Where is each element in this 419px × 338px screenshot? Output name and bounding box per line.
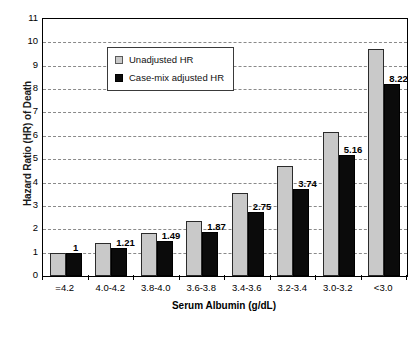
legend-item-adjusted: Case-mix adjusted HR xyxy=(115,71,224,85)
y-axis-tick-labels: 01234567891011 xyxy=(18,18,38,275)
x-axis-tick xyxy=(361,275,362,280)
x-axis-tick-label: 4.0-4.2 xyxy=(88,282,134,293)
legend-swatch-unadjusted-icon xyxy=(115,56,123,64)
bar-unadjusted xyxy=(323,132,339,276)
x-axis-tick-labels: =4.24.0-4.23.8-4.03.6-3.83.4-3.63.2-3.43… xyxy=(42,282,406,293)
y-axis-tick-label: 0 xyxy=(18,270,38,280)
bar-group: 1 xyxy=(43,19,89,276)
bar-unadjusted xyxy=(141,233,157,276)
x-axis-tick xyxy=(224,275,225,280)
x-axis-tick-label: =4.2 xyxy=(42,282,88,293)
chart-legend: Unadjusted HR Case-mix adjusted HR xyxy=(107,47,234,91)
y-axis-tick-label: 5 xyxy=(18,153,38,163)
bar-value-label: 3.74 xyxy=(298,179,317,189)
figure: Hazard Ratio (HR) of Death 0123456789101… xyxy=(0,0,419,338)
x-axis-tick-label: 3.4-3.6 xyxy=(224,282,270,293)
bar-adjusted: 1.21 xyxy=(111,248,127,276)
bar-adjusted: 3.74 xyxy=(293,189,309,276)
bar-adjusted: 1.49 xyxy=(157,241,173,276)
bar-unadjusted xyxy=(368,49,384,276)
bar-unadjusted xyxy=(232,193,248,276)
x-axis-tick xyxy=(179,275,180,280)
legend-item-unadjusted: Unadjusted HR xyxy=(115,53,224,67)
x-axis-tick xyxy=(88,275,89,280)
y-axis-tick-label: 7 xyxy=(18,107,38,117)
bar-group: 8.22 xyxy=(362,19,408,276)
x-axis-tick xyxy=(270,275,271,280)
cut-caption-strip xyxy=(0,332,419,338)
bar-value-label: 2.75 xyxy=(253,202,272,212)
y-axis-tick-label: 8 xyxy=(18,83,38,93)
bar-adjusted: 5.16 xyxy=(339,155,355,276)
bar-value-label: 1.21 xyxy=(116,238,135,248)
x-axis-tick xyxy=(42,275,43,280)
y-axis-tick-label: 1 xyxy=(18,247,38,257)
y-axis-tick-label: 4 xyxy=(18,177,38,187)
bar-group: 5.16 xyxy=(316,19,362,276)
y-axis-tick-label: 3 xyxy=(18,200,38,210)
bar-adjusted: 2.75 xyxy=(248,212,264,276)
bar-adjusted: 1.87 xyxy=(202,232,218,276)
legend-label-adjusted: Case-mix adjusted HR xyxy=(129,73,224,83)
y-axis-tick-label: 6 xyxy=(18,130,38,140)
x-axis-tick-label: 3.6-3.8 xyxy=(179,282,225,293)
x-axis-tick xyxy=(315,275,316,280)
x-axis-tick-label: 3.2-3.4 xyxy=(270,282,316,293)
x-axis-tick-label: <3.0 xyxy=(361,282,407,293)
bar-unadjusted xyxy=(95,243,111,276)
bar-adjusted: 8.22 xyxy=(384,84,400,276)
bar-value-label: 1 xyxy=(73,243,78,253)
x-axis-tick-label: 3.0-3.2 xyxy=(315,282,361,293)
y-axis-tick-label: 9 xyxy=(18,60,38,70)
bar-group: 3.74 xyxy=(271,19,317,276)
y-axis-tick-label: 2 xyxy=(18,224,38,234)
x-axis-tick xyxy=(133,275,134,280)
legend-label-unadjusted: Unadjusted HR xyxy=(129,55,193,65)
bar-value-label: 1.87 xyxy=(207,222,226,232)
x-axis-ticks xyxy=(42,275,406,280)
bar-value-label: 8.22 xyxy=(389,74,408,84)
bar-value-label: 1.49 xyxy=(162,231,181,241)
bar-value-label: 5.16 xyxy=(344,145,363,155)
bar-unadjusted xyxy=(277,166,293,277)
y-axis-tick-label: 10 xyxy=(18,37,38,47)
x-axis-tick-label: 3.8-4.0 xyxy=(133,282,179,293)
legend-swatch-adjusted-icon xyxy=(115,74,123,82)
plot-area: 11.211.491.872.753.745.168.22 Unadjusted… xyxy=(42,18,408,277)
bar-unadjusted xyxy=(50,253,66,276)
x-axis-title: Serum Albumin (g/dL) xyxy=(42,300,406,311)
bar-adjusted: 1 xyxy=(66,253,82,276)
bar-unadjusted xyxy=(186,221,202,276)
y-axis-tick-label: 11 xyxy=(18,13,38,23)
x-axis-tick xyxy=(406,275,407,280)
